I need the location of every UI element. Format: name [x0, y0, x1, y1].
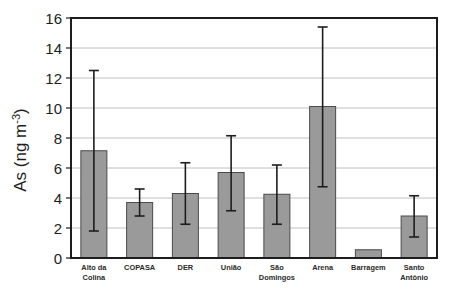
y-axis-tick-label: 0: [54, 250, 62, 267]
category-labels-group: Alto daColinaCOPASADERUniãoSãoDomingosAr…: [81, 263, 428, 282]
category-label: Arena: [312, 263, 334, 272]
category-label: São: [270, 263, 284, 272]
y-axis-label: As (ng m-3): [10, 108, 30, 191]
y-axis-tick-label: 10: [45, 100, 62, 117]
chart-canvas: Alto daColinaCOPASADERUniãoSãoDomingosAr…: [0, 0, 450, 306]
category-label: Domingos: [259, 273, 295, 282]
category-label: Antônio: [400, 273, 428, 282]
y-axis-tick-label: 14: [45, 40, 62, 57]
category-label: Santo: [404, 263, 425, 272]
arsenic-bar-chart: Alto daColinaCOPASADERUniãoSãoDomingosAr…: [0, 0, 450, 306]
category-label: Colina: [83, 273, 106, 282]
category-label: Alto da: [81, 263, 107, 272]
bar: [355, 250, 381, 258]
y-axis-tick-label: 12: [45, 70, 62, 87]
bars-group: [81, 107, 427, 259]
y-axis-tick-label: 16: [45, 10, 62, 27]
y-axis-ticks-group: 0246810121416: [45, 10, 71, 267]
y-axis-tick-label: 6: [54, 160, 62, 177]
y-axis-tick-label: 4: [54, 190, 62, 207]
category-label: Barragem: [351, 263, 386, 272]
y-axis-tick-label: 2: [54, 220, 62, 237]
y-axis-label-text: As (ng m-3): [10, 108, 30, 191]
gridlines-group: [71, 18, 437, 228]
category-label: União: [221, 263, 242, 272]
category-label: DER: [178, 263, 194, 272]
category-label: COPASA: [124, 263, 156, 272]
y-axis-tick-label: 8: [54, 130, 62, 147]
